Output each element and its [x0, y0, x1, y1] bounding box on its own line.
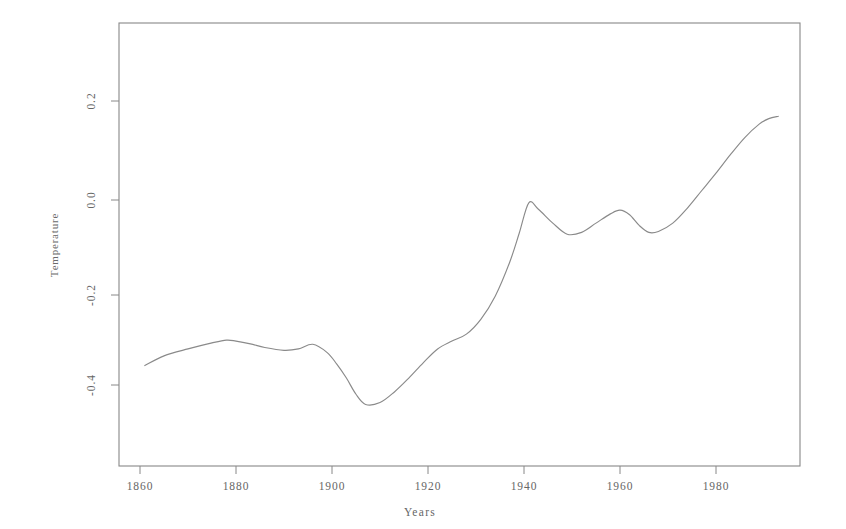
chart-svg: 1860 1880 1900 1920 1940 1960 1980 Years… [0, 0, 846, 529]
x-tick-label: 1860 [127, 480, 154, 492]
x-tick-label: 1880 [223, 480, 250, 492]
temperature-line-chart: 1860 1880 1900 1920 1940 1960 1980 Years… [0, 0, 846, 529]
y-tick-label: -0.4 [85, 374, 97, 396]
y-tick-label: 0.2 [85, 92, 97, 109]
x-axis-title: Years [404, 506, 436, 518]
y-tick-label: -0.2 [85, 284, 97, 306]
x-tick-label: 1940 [511, 480, 538, 492]
x-tick-label: 1980 [703, 480, 730, 492]
y-tick-label: 0.0 [85, 191, 97, 208]
y-axis-title: Temperature [48, 213, 60, 277]
x-tick-label: 1900 [319, 480, 346, 492]
x-tick-label: 1920 [415, 480, 442, 492]
chart-background [0, 0, 846, 529]
x-tick-label: 1960 [607, 480, 634, 492]
